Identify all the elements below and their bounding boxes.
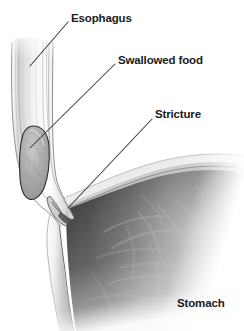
label-swallowed-food: Swallowed food (118, 55, 203, 67)
stomach-bottom-fade (46, 240, 244, 331)
anatomy-illustration (0, 0, 244, 331)
label-esophagus: Esophagus (71, 13, 132, 25)
medical-illustration-figure: Esophagus Swallowed food Stricture Stoma… (0, 0, 244, 331)
label-stomach: Stomach (177, 298, 225, 310)
esophagus-top-fade (6, 26, 62, 60)
label-stricture: Stricture (155, 109, 201, 121)
esophagus-group (6, 26, 74, 227)
